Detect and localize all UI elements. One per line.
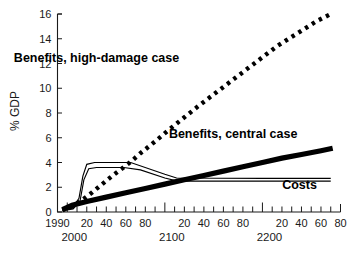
x-tick-label: 20 bbox=[81, 217, 93, 229]
y-tick-label: 4 bbox=[45, 157, 51, 169]
series-annotation: Benefits, high-damage case bbox=[14, 51, 179, 65]
y-tick-label: 8 bbox=[45, 107, 51, 119]
chart-canvas: 0246810121416 19902040608020406080204060… bbox=[0, 0, 359, 255]
x-era-label: 2100 bbox=[159, 231, 185, 243]
x-tick-label: 80 bbox=[139, 217, 151, 229]
y-axis-title-text: % GDP bbox=[8, 91, 22, 131]
x-tick-label: 60 bbox=[315, 217, 327, 229]
x-tick-label: 60 bbox=[120, 217, 132, 229]
x-era-label: 2000 bbox=[61, 231, 87, 243]
series-annotation: Benefits, central case bbox=[169, 127, 298, 141]
x-tick-label: 20 bbox=[276, 217, 288, 229]
x-tick-label: 40 bbox=[100, 217, 112, 229]
y-tick-label: 14 bbox=[39, 33, 51, 45]
x-tick-label: 40 bbox=[295, 217, 307, 229]
x-tick-label: 80 bbox=[334, 217, 346, 229]
y-tick-label: 10 bbox=[39, 82, 51, 94]
y-tick-label: 2 bbox=[45, 181, 51, 193]
x-tick-label: 20 bbox=[178, 217, 190, 229]
y-axis-title: % GDP bbox=[8, 91, 22, 131]
y-tick-label: 16 bbox=[39, 8, 51, 20]
chart-figure: 0246810121416 19902040608020406080204060… bbox=[0, 0, 359, 255]
x-tick-label: 80 bbox=[237, 217, 249, 229]
x-tick-label: 60 bbox=[217, 217, 229, 229]
x-era-label: 2200 bbox=[257, 231, 283, 243]
series-annotation: Costs bbox=[282, 178, 317, 192]
x-tick-label: 1990 bbox=[45, 217, 69, 229]
x-tick-label: 40 bbox=[198, 217, 210, 229]
y-tick-label: 6 bbox=[45, 132, 51, 144]
